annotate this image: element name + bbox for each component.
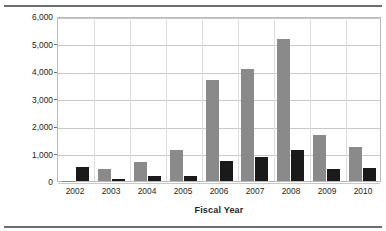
bar-black-series-2004 [148, 176, 161, 181]
bar-gray-series-2006 [206, 80, 219, 181]
y-tick-mark-3000 [54, 99, 57, 100]
bar-black-series-2007 [255, 157, 268, 181]
bar-group-2004 [130, 18, 166, 181]
bar-gray-series-2010 [349, 147, 362, 181]
chart-figure: Arrests 01,0002,0003,0004,0005,0006,000 … [0, 0, 386, 231]
x-tick-label-2009: 2009 [309, 186, 345, 196]
bar-gray-series-2008 [277, 39, 290, 181]
bar-black-series-2006 [220, 161, 233, 181]
y-tick-mark-4000 [54, 72, 57, 73]
bar-group-2003 [94, 18, 130, 181]
bar-black-series-2002 [76, 167, 89, 181]
x-tick-label-2006: 2006 [201, 186, 237, 196]
y-tick-label-1000: 1,000 [9, 150, 53, 158]
bar-group-2002 [58, 18, 94, 181]
bar-black-series-2003 [112, 179, 125, 181]
x-tick-label-2007: 2007 [237, 186, 273, 196]
x-tick-label-2010: 2010 [345, 186, 381, 196]
y-tick-label-5000: 5,000 [9, 40, 53, 48]
bar-gray-series-2007 [241, 69, 254, 181]
bar-gray-series-2009 [313, 135, 326, 181]
x-tick-label-2003: 2003 [93, 186, 129, 196]
bar-group-2008 [273, 18, 309, 181]
bar-gray-series-2004 [134, 162, 147, 181]
bar-gray-series-2005 [170, 150, 183, 181]
footer-rule [4, 226, 382, 228]
bar-black-series-2010 [363, 168, 376, 181]
y-tick-mark-2000 [54, 127, 57, 128]
y-tick-mark-5000 [54, 44, 57, 45]
y-tick-label-4000: 4,000 [9, 68, 53, 76]
x-axis-tick-labels: 200220032004200520062007200820092010 [57, 186, 381, 196]
x-tick-label-2002: 2002 [57, 186, 93, 196]
y-tick-label-2000: 2,000 [9, 123, 53, 131]
plot-area [57, 17, 381, 182]
x-axis-title: Fiscal Year [57, 205, 381, 215]
y-tick-mark-1000 [54, 154, 57, 155]
y-tick-label-0: 0 [9, 178, 53, 186]
y-tick-label-6000: 6,000 [9, 13, 53, 21]
gridline-0 [58, 183, 380, 184]
bar-group-2006 [201, 18, 237, 181]
y-tick-label-3000: 3,000 [9, 95, 53, 103]
x-tick-label-2004: 2004 [129, 186, 165, 196]
bar-group-2005 [165, 18, 201, 181]
bar-group-2010 [344, 18, 380, 181]
x-tick-label-2008: 2008 [273, 186, 309, 196]
x-tick-label-2005: 2005 [165, 186, 201, 196]
bar-black-series-2009 [327, 169, 340, 181]
bar-black-series-2008 [291, 150, 304, 181]
bar-groups [58, 18, 380, 181]
bar-group-2007 [237, 18, 273, 181]
bar-gray-series-2003 [98, 169, 111, 181]
bar-black-series-2005 [184, 176, 197, 181]
bar-group-2009 [308, 18, 344, 181]
header-rule [4, 5, 382, 7]
